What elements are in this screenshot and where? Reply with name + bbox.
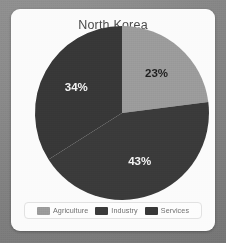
pie-slice-label-agriculture: 23% [145,67,168,79]
legend-label: Agriculture [53,206,88,215]
legend-label: Industry [111,206,137,215]
chart-legend: AgricultureIndustryServices [24,202,202,219]
pie-slice-group [35,26,209,200]
legend-swatch-agriculture-icon [37,207,50,215]
pie-slice-label-industry: 43% [128,155,151,167]
legend-item-services[interactable]: Services [145,206,189,215]
pie-slice-label-services: 34% [65,81,88,93]
legend-item-industry[interactable]: Industry [95,206,137,215]
legend-swatch-industry-icon [95,207,108,215]
legend-label: Services [161,206,189,215]
screenshot-frame: North Korea 23%43%34% AgricultureIndustr… [0,0,226,243]
pie-chart-svg: 23%43%34% [11,9,215,231]
legend-swatch-services-icon [145,207,158,215]
legend-item-agriculture[interactable]: Agriculture [37,206,88,215]
pie-chart: 23%43%34% [11,9,215,231]
chart-card: North Korea 23%43%34% AgricultureIndustr… [11,9,215,231]
